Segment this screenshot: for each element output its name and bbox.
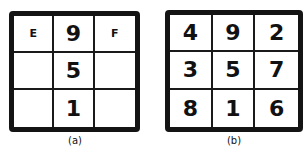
cell-a-9 <box>95 90 135 127</box>
cell-a-3: F <box>95 16 135 53</box>
cell-b-7: 8 <box>170 90 213 127</box>
cell-a-6 <box>95 53 135 90</box>
grid-b: 4 9 2 3 5 7 8 1 6 <box>165 10 303 132</box>
cell-a-5: 5 <box>54 53 94 90</box>
cell-b-3: 2 <box>255 15 298 52</box>
grid-a: E 9 F 5 1 <box>9 11 140 132</box>
cell-b-6: 7 <box>255 52 298 89</box>
cell-b-9: 6 <box>255 90 298 127</box>
cell-b-8: 1 <box>213 90 256 127</box>
cell-b-1: 4 <box>170 15 213 52</box>
caption-a: (a) <box>55 135 95 146</box>
caption-b: (b) <box>214 135 254 146</box>
cell-a-8: 1 <box>54 90 94 127</box>
cell-b-5: 5 <box>213 52 256 89</box>
cell-a-1: E <box>14 16 54 53</box>
cell-a-7 <box>14 90 54 127</box>
cell-b-4: 3 <box>170 52 213 89</box>
cell-a-2: 9 <box>54 16 94 53</box>
cell-b-2: 9 <box>213 15 256 52</box>
cell-a-4 <box>14 53 54 90</box>
